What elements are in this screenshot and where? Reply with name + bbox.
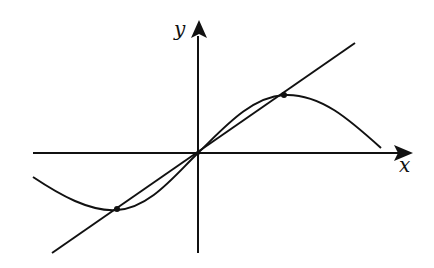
intersection-point-left [114, 206, 120, 212]
diagram-canvas: y x [0, 0, 434, 268]
intersection-point-origin [196, 151, 200, 155]
intersection-point-right [281, 92, 287, 98]
y-axis-arrow-icon [191, 20, 207, 38]
x-axis-label: x [399, 153, 410, 177]
y-axis-label: y [173, 17, 186, 41]
